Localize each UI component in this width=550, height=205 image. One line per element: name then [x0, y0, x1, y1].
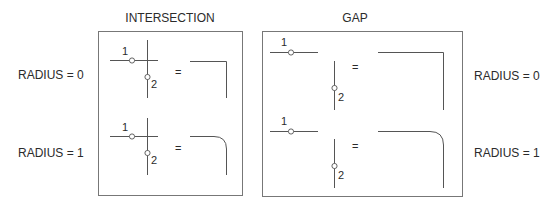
- gap-title: GAP: [342, 11, 367, 25]
- point-2-label: 2: [151, 154, 157, 166]
- pick-point-1: [288, 129, 293, 134]
- point-1-label: 1: [122, 45, 128, 57]
- pick-point-2: [332, 85, 337, 90]
- point-1-label: 1: [122, 121, 128, 133]
- gap-frame: [263, 32, 463, 197]
- point-1-label: 1: [281, 115, 287, 127]
- point-2-label: 2: [151, 78, 157, 90]
- intersection-row-radius-0: 1 2 =: [110, 40, 227, 98]
- result-rounded-corner: [378, 132, 444, 189]
- point-2-label: 2: [338, 169, 344, 181]
- point-2-label: 2: [338, 91, 344, 103]
- pick-point-1: [288, 50, 293, 55]
- intersection-panel: INTERSECTION 1 2 = 1 2 =: [99, 11, 243, 196]
- gap-row-radius-1: 1 2 =: [270, 115, 444, 188]
- pick-point-2: [145, 150, 150, 155]
- equals-sign: =: [352, 140, 358, 152]
- result-sharp-corner: [378, 53, 444, 111]
- intersection-radius-0-label: RADIUS = 0: [18, 68, 84, 82]
- intersection-title: INTERSECTION: [125, 11, 214, 25]
- gap-row-radius-0: 1 2 =: [270, 36, 444, 110]
- pick-point-2: [332, 163, 337, 168]
- result-rounded-corner: [190, 137, 227, 176]
- gap-radius-0-label: RADIUS = 0: [474, 69, 540, 83]
- equals-sign: =: [175, 66, 181, 78]
- intersection-row-radius-1: 1 2 =: [110, 118, 227, 175]
- point-1-label: 1: [281, 36, 287, 48]
- pick-point-1: [129, 134, 134, 139]
- equals-sign: =: [175, 142, 181, 154]
- gap-radius-1-label: RADIUS = 1: [474, 146, 540, 160]
- fillet-diagram: INTERSECTION 1 2 = 1 2 = RADIUS = 0 RADI…: [0, 0, 550, 205]
- pick-point-1: [129, 58, 134, 63]
- intersection-radius-1-label: RADIUS = 1: [18, 146, 84, 160]
- intersection-frame: [99, 32, 243, 196]
- equals-sign: =: [352, 61, 358, 73]
- gap-panel: GAP 1 2 = 1 2 =: [263, 11, 463, 197]
- pick-point-2: [145, 74, 150, 79]
- result-sharp-corner: [190, 62, 227, 99]
